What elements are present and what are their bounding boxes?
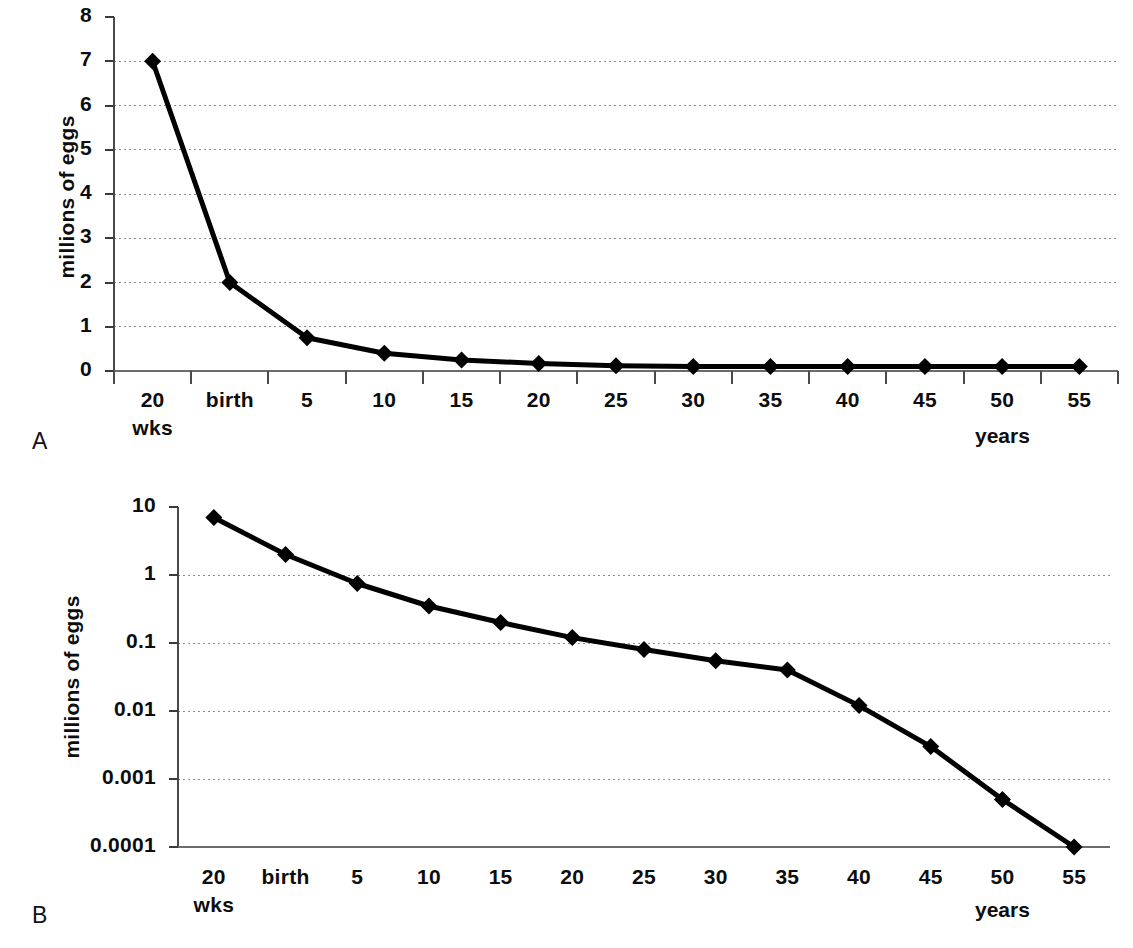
panel-b-y-tick-0: 0.0001 — [0, 833, 156, 857]
panel-b-x-tick-0: 20 — [178, 865, 250, 889]
panel-b-x-tick-5: 20 — [536, 865, 608, 889]
panel-a-x-tick-6: 25 — [577, 388, 654, 412]
panel-a-y-tick-6: 6 — [0, 92, 92, 116]
panel-a-y-tick-5: 5 — [0, 136, 92, 160]
panel-b-x-tick-4: 15 — [465, 865, 537, 889]
panel-b-chart: B millions of eggs 0.00010.0010.010.1110… — [0, 470, 1133, 948]
panel-a-x-tick-9: 40 — [809, 388, 886, 412]
panel-a-y-tick-2: 2 — [0, 269, 92, 293]
panel-a-y-tick-8: 8 — [0, 3, 92, 27]
panel-b-letter: B — [32, 902, 48, 929]
panel-b-x-tick-2: 5 — [321, 865, 393, 889]
panel-a-x-tick-0: 20 — [114, 388, 191, 412]
panel-b-x-tick-7: 30 — [680, 865, 752, 889]
panel-a-y-tick-3: 3 — [0, 224, 92, 248]
panel-a-y-tick-1: 1 — [0, 313, 92, 337]
panel-a-x-tick-2: 5 — [268, 388, 345, 412]
panel-a-x-tick-12: 55 — [1041, 388, 1118, 412]
panel-a-x-tick-5: 20 — [500, 388, 577, 412]
panel-a-x-tick-0-line2: wks — [114, 416, 191, 440]
panel-b-y-tick-3: 0.1 — [0, 629, 156, 653]
panel-a-x-tick-4: 15 — [423, 388, 500, 412]
panel-a-chart: A millions of eggs 012345678 20wksbirth5… — [0, 0, 1133, 470]
panel-b-x-tick-11: 50 — [967, 865, 1039, 889]
panel-b-y-tick-2: 0.01 — [0, 697, 156, 721]
panel-a-x-tick-11: 50 — [964, 388, 1041, 412]
panel-a-y-tick-7: 7 — [0, 47, 92, 71]
panel-a-x-unit-label: years — [975, 424, 1030, 448]
panel-b-x-tick-6: 25 — [608, 865, 680, 889]
panel-a-x-tick-1: birth — [191, 388, 268, 412]
panel-b-x-tick-10: 45 — [895, 865, 967, 889]
panel-b-plot-area — [0, 470, 1133, 870]
panel-b-x-tick-3: 10 — [393, 865, 465, 889]
panel-a-y-tick-0: 0 — [0, 357, 92, 381]
panel-a-x-tick-8: 35 — [732, 388, 809, 412]
panel-b-x-tick-12: 55 — [1038, 865, 1110, 889]
panel-b-x-tick-9: 40 — [823, 865, 895, 889]
panel-b-y-tick-4: 1 — [0, 561, 156, 585]
panel-b-x-tick-1: birth — [250, 865, 322, 889]
panel-a-x-tick-3: 10 — [346, 388, 423, 412]
panel-b-y-tick-5: 10 — [0, 493, 156, 517]
panel-a-x-tick-7: 30 — [655, 388, 732, 412]
panel-a-plot-area — [0, 0, 1133, 400]
panel-a-letter: A — [32, 428, 48, 455]
panel-a-y-tick-4: 4 — [0, 180, 92, 204]
figure-caption-cropped — [0, 938, 1133, 948]
panel-a-x-tick-10: 45 — [886, 388, 963, 412]
panel-b-x-tick-0-line2: wks — [178, 893, 250, 917]
panel-b-y-tick-1: 0.001 — [0, 765, 156, 789]
panel-b-x-unit-label: years — [975, 898, 1030, 922]
panel-b-x-tick-8: 35 — [752, 865, 824, 889]
